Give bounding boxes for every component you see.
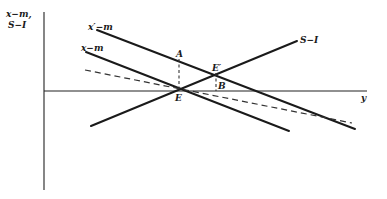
dashed-line [85,70,352,123]
x-prime-minus-m-label: x′−m [87,22,113,32]
point-a-label: A [175,49,183,59]
point-b-label: B [217,81,226,91]
point-e-label: E [174,93,182,103]
x-axis-label: y [360,93,367,103]
s-minus-i-line [91,41,297,126]
x-minus-m-label: x−m [80,43,103,53]
y-axis-label-top: x−m, [5,9,32,20]
y-axis-label-bottom: S−I [8,20,27,30]
economics-diagram: x−m, S−I y x′−m x−m S−I A E E′ B [0,0,387,199]
s-minus-i-label: S−I [300,35,319,45]
point-e-prime-label: E′ [211,63,222,73]
